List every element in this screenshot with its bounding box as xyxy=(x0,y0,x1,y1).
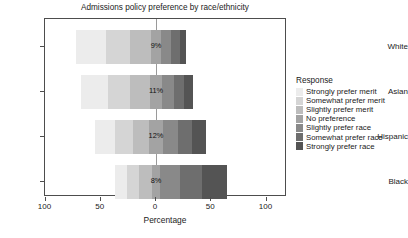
legend-label: Strongly prefer merit xyxy=(306,87,377,96)
plot-panel: 9%11%12%8% xyxy=(44,18,286,196)
y-label-white: White xyxy=(370,42,408,51)
x-tick-label: 0 xyxy=(135,202,175,211)
legend-swatch-icon xyxy=(296,106,303,114)
legend-item[interactable]: Somewhat prefer merit xyxy=(296,96,408,105)
x-tick xyxy=(45,197,46,201)
bar-segment[interactable] xyxy=(184,75,193,109)
legend-label: Slightly prefer race xyxy=(306,123,371,132)
x-tick-label: 50 xyxy=(80,202,120,211)
chart-root: Admissions policy preference by race/eth… xyxy=(0,0,408,238)
legend-swatch-icon xyxy=(296,97,303,105)
legend-title: Response xyxy=(296,76,408,85)
x-tick-label: 100 xyxy=(246,202,286,211)
bar-segment[interactable] xyxy=(178,120,192,154)
legend-swatch-icon xyxy=(296,142,303,150)
bar-segment[interactable] xyxy=(115,165,127,199)
legend-label: Strongly prefer race xyxy=(306,142,374,151)
legend-item[interactable]: Slightly prefer merit xyxy=(296,105,408,114)
bar-center-label: 9% xyxy=(136,41,176,50)
x-tick xyxy=(266,197,267,201)
x-tick-label: 50 xyxy=(190,202,230,211)
legend-item[interactable]: Strongly prefer race xyxy=(296,142,408,151)
bar-segment[interactable] xyxy=(180,165,202,199)
x-axis-title: Percentage xyxy=(44,215,286,225)
legend-label: Somewhat prefer merit xyxy=(306,96,385,105)
bar-segment[interactable] xyxy=(192,120,205,154)
bar-center-label: 8% xyxy=(136,176,176,185)
legend-swatch-icon xyxy=(296,115,303,123)
y-label-black: Black xyxy=(370,177,408,186)
x-tick-label: 100 xyxy=(25,202,65,211)
legend-label: Somewhat prefer race xyxy=(306,133,383,142)
legend-label: Slightly prefer merit xyxy=(306,105,373,114)
bar-center-label: 11% xyxy=(136,86,176,95)
legend-item[interactable]: Strongly prefer merit xyxy=(296,87,408,96)
bar-segment[interactable] xyxy=(76,30,106,64)
x-tick xyxy=(155,197,156,201)
legend-swatch-icon xyxy=(296,88,303,96)
legend-item[interactable]: No preference xyxy=(296,114,408,123)
x-tick xyxy=(210,197,211,201)
bar-center-label: 12% xyxy=(136,131,176,140)
legend-item[interactable]: Slightly prefer race xyxy=(296,123,408,132)
bar-segment[interactable] xyxy=(106,30,130,64)
legend: Response Strongly prefer meritSomewhat p… xyxy=(296,76,408,151)
x-tick xyxy=(100,197,101,201)
legend-item[interactable]: Somewhat prefer race xyxy=(296,132,408,141)
legend-swatch-icon xyxy=(296,133,303,141)
legend-swatch-icon xyxy=(296,124,303,132)
bar-segment[interactable] xyxy=(180,30,187,64)
legend-label: No preference xyxy=(306,114,355,123)
bar-segment[interactable] xyxy=(115,120,133,154)
bar-segment[interactable] xyxy=(81,75,108,109)
chart-title: Admissions policy preference by race/eth… xyxy=(44,2,286,13)
bar-segment[interactable] xyxy=(108,75,130,109)
legend-items: Strongly prefer meritSomewhat prefer mer… xyxy=(296,87,408,151)
bar-segment[interactable] xyxy=(202,165,226,199)
bar-segment[interactable] xyxy=(95,120,115,154)
